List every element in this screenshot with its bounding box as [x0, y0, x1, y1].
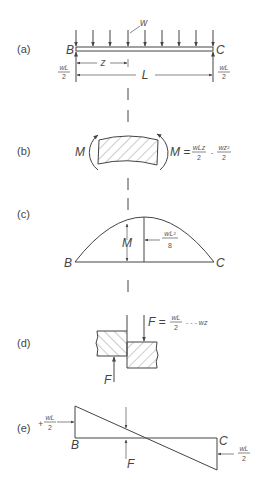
svg-text:2: 2 [242, 455, 246, 462]
svg-text:F =: F = [148, 315, 165, 329]
label-c: C [216, 256, 225, 270]
panel-d: (d) F = wL 2 - - - wz F [17, 314, 208, 387]
force-label-f: F [104, 373, 112, 387]
panel-b: (b) M M = wLz 2 - wz² 2 [17, 134, 231, 170]
moment-label-left: M [75, 145, 85, 159]
panel-label-e: (e) [17, 422, 30, 434]
svg-text:wLz: wLz [193, 144, 206, 151]
svg-text:wz²: wz² [219, 144, 231, 151]
svg-text:wL: wL [220, 64, 229, 71]
panel-e: (e) F + wL 2 B C wL 2 [17, 406, 250, 471]
svg-text:2: 2 [222, 73, 226, 80]
svg-text:L: L [142, 68, 149, 82]
label-b-e: B [71, 438, 79, 452]
panel-label-c: (c) [17, 208, 30, 220]
label-c-e: C [219, 434, 228, 448]
svg-text:- - - wz: - - - wz [186, 319, 208, 326]
svg-text:2: 2 [62, 73, 66, 80]
panel-label-a: (a) [17, 43, 30, 55]
svg-text:M =: M = [170, 145, 190, 159]
left-block [96, 331, 127, 356]
dimension-l: L [77, 68, 212, 82]
svg-text:2: 2 [174, 324, 178, 331]
label-b: B [64, 256, 72, 270]
beam [76, 47, 213, 51]
dimension-z: z [77, 57, 128, 68]
panel-c: (c) M wL² 8 B C [17, 208, 225, 270]
panel-label-d: (d) [17, 337, 30, 349]
section-line [127, 88, 128, 331]
moment-arrow-right [157, 134, 168, 170]
max-moment-fraction: wL² 8 [162, 230, 178, 249]
distributed-load-arrows [76, 30, 213, 46]
moment-label-m: M [122, 236, 132, 250]
svg-text:2: 2 [197, 154, 201, 161]
beam-analysis-figure: (a) w B C wL 2 wL [0, 0, 260, 491]
support-label-b: B [66, 43, 74, 57]
load-label-w: w [140, 17, 148, 28]
left-shear-value: + wL 2 [38, 414, 74, 431]
svg-text:+: + [38, 419, 43, 429]
svg-text:2: 2 [222, 154, 226, 161]
reaction-c-fraction: wL 2 [218, 64, 230, 80]
svg-text:2: 2 [48, 424, 52, 431]
beam-segment [98, 136, 158, 165]
svg-text:wL: wL [240, 445, 249, 452]
panel-a: (a) w B C wL 2 wL [17, 17, 230, 82]
right-block [127, 342, 158, 368]
svg-text:wL: wL [60, 64, 69, 71]
moment-arrow-left [89, 135, 98, 170]
svg-text:-: - [211, 149, 214, 156]
svg-text:wL: wL [46, 414, 55, 421]
reaction-b-fraction: wL 2 [58, 64, 70, 80]
svg-text:wL: wL [172, 314, 181, 321]
shear-equation: F = wL 2 - - - wz [148, 314, 208, 331]
svg-text:8: 8 [168, 242, 172, 249]
force-label-f-e: F [127, 457, 135, 471]
support-label-c: C [216, 43, 225, 57]
svg-text:wL²: wL² [164, 230, 176, 237]
panel-label-b: (b) [17, 145, 30, 157]
svg-text:z: z [100, 57, 106, 68]
moment-equation: M = wLz 2 - wz² 2 [170, 144, 231, 161]
